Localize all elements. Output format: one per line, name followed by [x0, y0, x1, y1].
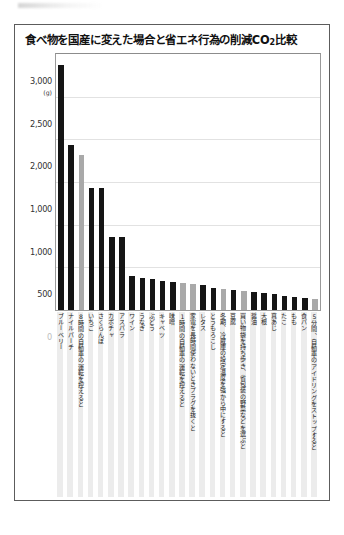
x-axis-tick-label: 醤油 [250, 313, 256, 325]
bar-food [231, 290, 237, 310]
y-axis-tick-label: 3,000 [30, 76, 52, 86]
x-axis-tick-label: 8時間の自動車の運転を控えると [77, 313, 83, 407]
bar-food [89, 188, 95, 310]
bar-energy [79, 155, 85, 310]
x-axis-tick-label: うなぎ [138, 313, 144, 332]
x-axis-tick-label: ナイルパーチ [67, 313, 73, 350]
x-axis-tick-label: 大根 [260, 313, 266, 325]
x-axis-tick-label: いちご [87, 313, 93, 332]
bar-food [261, 293, 267, 310]
label-column-stripe [271, 312, 277, 497]
label-column-stripe [88, 312, 94, 497]
chart-title-main: 食べ物を国産に変えた場合と省エネ行為の削減CO [25, 33, 269, 47]
label-column-stripe [291, 312, 297, 497]
x-axis-tick-label: 家電を長時間使わないときプラグを抜くと [189, 313, 195, 431]
x-axis-tick-label: カボチャ [108, 313, 114, 338]
bar-food [99, 188, 105, 310]
plot-area [55, 53, 321, 311]
x-axis-tick-label: ブルーベリー [57, 313, 63, 350]
bar-food [211, 288, 217, 310]
bar-food [119, 237, 125, 310]
x-axis-tick-label: もも [290, 313, 296, 325]
bar-food [58, 65, 64, 310]
bar-energy [241, 291, 247, 310]
x-axis-tick-label: 買い物袋を持ち歩き、省包装の野菜などを選ぶと [240, 313, 246, 449]
chart-title: 食べ物を国産に変えた場合と省エネ行為の削減CO2比較 [25, 31, 321, 49]
label-column-stripe [108, 312, 114, 497]
y-axis: 3,0002,5002,0001,0001,0005000(g) [15, 53, 55, 311]
label-column-stripe [230, 312, 236, 497]
x-axis-labels: ブルーベリーナイルパーチ8時間の自動車の運転を控えるといちごさくらんぼカボチャア… [55, 312, 321, 497]
bar-food [251, 292, 257, 310]
label-column-stripe [199, 312, 205, 497]
label-column-stripe [301, 312, 307, 497]
x-axis-tick-label: 食パン [301, 313, 307, 332]
y-axis-tick-label: 1,000 [30, 204, 52, 214]
x-axis-tick-label: アスパラ [118, 313, 124, 338]
scan-artifact [18, 3, 104, 8]
bar-food [129, 276, 135, 310]
bar-food [150, 279, 156, 310]
x-axis-tick-label: たこ [280, 313, 286, 325]
x-axis-tick-label: レタス [199, 313, 205, 332]
x-axis-tick-label: キャベツ [158, 313, 164, 338]
bar-food [200, 285, 206, 310]
bar-food [292, 297, 298, 310]
x-axis-tick-label: ぶどう [148, 313, 154, 332]
bar-food [272, 294, 278, 310]
x-axis-tick-label: ワイン [128, 313, 134, 332]
chart-figure-frame: 食べ物を国産に変えた場合と省エネ行為の削減CO2比較 3,0002,5002,0… [14, 24, 330, 501]
bar-energy [312, 299, 318, 310]
y-axis-unit-label: (g) [43, 89, 52, 96]
y-axis-tick-label: 1,000 [30, 247, 52, 257]
y-axis-tick-label: 2,500 [30, 119, 52, 129]
label-column-stripe [118, 312, 124, 497]
x-axis-tick-label: 5分間、自動車のアイドリングをストップすると [311, 313, 317, 450]
x-axis-tick-label: 1時間の自動車の運転を控えると [179, 313, 185, 407]
bar-food [282, 296, 288, 311]
bar-energy [180, 283, 186, 310]
bar-food [160, 281, 166, 310]
x-axis-tick-label: 真あじ [270, 313, 276, 332]
bar-food [109, 237, 115, 310]
chart-title-tail: 比較 [275, 33, 297, 47]
bar-food [170, 282, 176, 310]
x-axis-tick-label: さくらんぼ [97, 313, 103, 344]
label-column-stripe [250, 312, 256, 497]
x-axis-tick-label: 冬期、冷蔵庫の設定温度を強から中にすると [219, 313, 225, 437]
label-column-stripe [159, 312, 165, 497]
y-axis-tick-label: 0 [47, 332, 52, 342]
label-column-stripe [260, 312, 266, 497]
x-axis-tick-label: とうもろこし [209, 313, 215, 350]
bar-food [140, 278, 146, 310]
x-axis-tick-label: 味噌 [169, 313, 175, 325]
y-axis-tick-label: 500 [37, 289, 52, 299]
label-column-stripe [169, 312, 175, 497]
label-column-stripe [281, 312, 287, 497]
bar-energy [221, 289, 227, 310]
bar-energy [190, 284, 196, 310]
bar-food [68, 145, 74, 310]
label-column-stripe [128, 312, 134, 497]
label-column-stripe [139, 312, 145, 497]
label-column-stripe [149, 312, 155, 497]
bars-layer [56, 54, 320, 310]
y-axis-tick-label: 2,000 [30, 161, 52, 171]
bar-food [302, 298, 308, 310]
x-axis-tick-label: 豆腐 [229, 313, 235, 325]
